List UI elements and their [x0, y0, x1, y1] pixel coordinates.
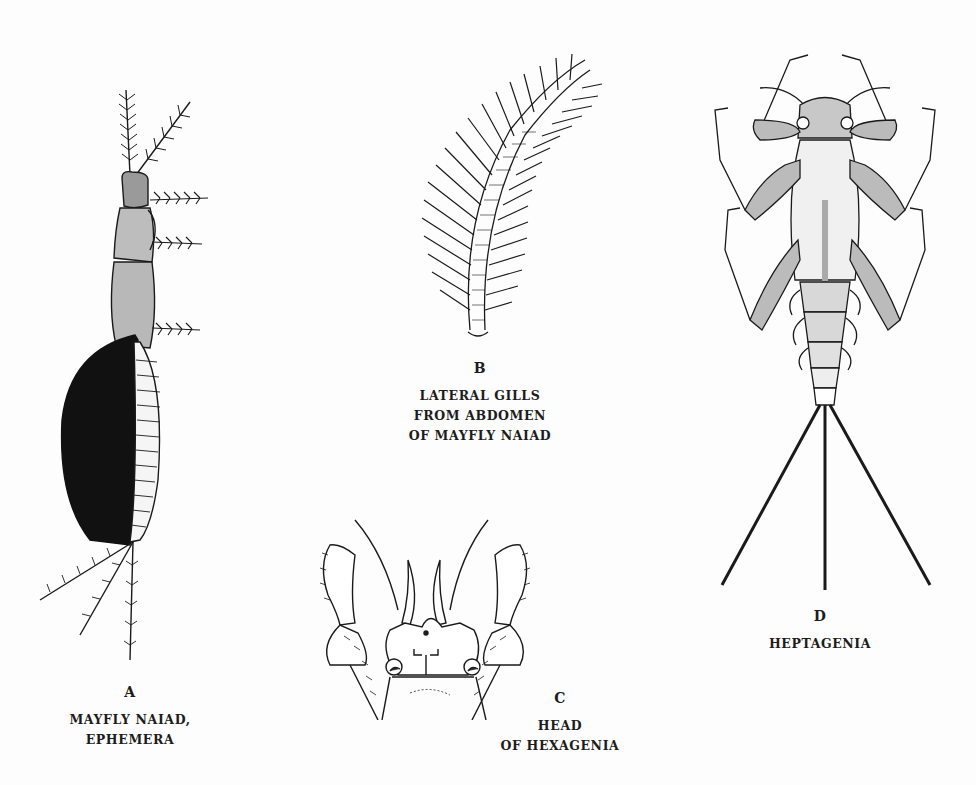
- figure-d-heptagenia: [700, 50, 950, 595]
- figure-b-caption: B LATERAL GILLS FROM ABDOMEN OF MAYFLY N…: [380, 358, 580, 446]
- figure-b-letter: B: [380, 358, 580, 378]
- figure-a-letter: A: [30, 682, 230, 702]
- figure-d-letter: D: [730, 606, 910, 626]
- figure-d-caption: D HEPTAGENIA: [730, 606, 910, 654]
- figure-c-caption-line: HEAD: [460, 716, 660, 736]
- lateral-gill-illustration: [400, 40, 610, 340]
- figure-c-caption: C HEAD OF HEXAGENIA: [460, 688, 660, 756]
- figure-a-caption-line: MAYFLY NAIAD,: [30, 710, 230, 730]
- figure-b-caption-line: OF MAYFLY NAIAD: [380, 426, 580, 446]
- figure-b-caption-line: LATERAL GILLS: [380, 386, 580, 406]
- figure-a-caption-line: EPHEMERA: [30, 730, 230, 750]
- figure-b-caption-line: FROM ABDOMEN: [380, 406, 580, 426]
- figure-a-mayfly-naiad: [30, 80, 230, 670]
- figure-a-caption: A MAYFLY NAIAD, EPHEMERA: [30, 682, 230, 750]
- figure-c-caption-line: OF HEXAGENIA: [460, 736, 660, 756]
- heptagenia-illustration: [700, 50, 950, 595]
- figure-c-letter: C: [460, 688, 660, 708]
- figure-b-lateral-gill: [400, 40, 610, 340]
- figure-d-caption-line: HEPTAGENIA: [730, 634, 910, 654]
- mayfly-naiad-illustration: [30, 80, 230, 670]
